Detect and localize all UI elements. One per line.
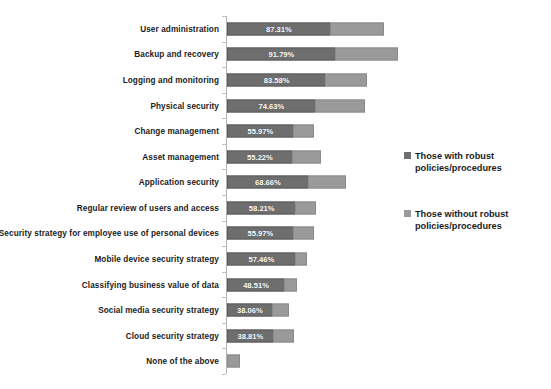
bar-segment-with-robust[interactable]: 48.51% <box>227 278 284 291</box>
bar-segment-with-robust[interactable]: 58.21% <box>227 201 295 214</box>
bar-row: None of the above10.71% <box>226 348 401 374</box>
bar-segment-without-robust[interactable]: 10.71% <box>284 278 297 291</box>
bar-segment-without-robust[interactable]: 17.86% <box>273 329 294 342</box>
bar-segment-with-robust[interactable]: 68.66% <box>227 176 308 189</box>
bar-segment-with-robust[interactable]: 87.31% <box>227 22 330 35</box>
bar-value-label: 38.81% <box>237 331 263 340</box>
bar-segment-with-robust[interactable]: 55.97% <box>227 125 293 138</box>
bar-segment-without-robust[interactable]: 17.86% <box>293 125 314 138</box>
bar-segment-without-robust[interactable]: 35.71% <box>325 73 367 86</box>
bar-row: Change management55.97%17.86% <box>226 118 401 144</box>
bar-row: Security strategy for employee use of pe… <box>226 221 401 247</box>
stacked-bar[interactable]: 10.71% <box>227 355 240 368</box>
bar-row: Asset management55.22%25.00% <box>226 144 401 170</box>
bar-segment-without-robust[interactable]: 46.43% <box>330 22 385 35</box>
stacked-bar[interactable]: 38.06%14.29% <box>227 304 289 317</box>
bar-segment-with-robust[interactable]: 74.63% <box>227 99 315 112</box>
stacked-bar[interactable]: 38.81%17.86% <box>227 329 294 342</box>
stacked-bar[interactable]: 55.97%17.86% <box>227 125 314 138</box>
bar-segment-with-robust[interactable]: 55.97% <box>227 227 293 240</box>
stacked-bar[interactable]: 58.21%17.86% <box>227 201 316 214</box>
bar-segment-without-robust[interactable]: 42.86% <box>315 99 365 112</box>
bar-value-label: 55.97% <box>248 127 274 136</box>
stacked-bar[interactable]: 91.79%53.57% <box>227 48 398 61</box>
bar-value-label: 48.51% <box>243 280 269 289</box>
stacked-bar[interactable]: 55.97%17.86% <box>227 227 314 240</box>
bar-segment-without-robust[interactable]: 25.00% <box>292 150 321 163</box>
legend-item-label: Those with robust policies/procedures <box>415 150 533 174</box>
bar-value-label: 91.79% <box>269 50 295 59</box>
bar-value-label: 74.63% <box>259 101 285 110</box>
category-label: Mobile device security strategy <box>94 254 219 263</box>
bar-row: Social media security strategy38.06%14.2… <box>226 297 401 323</box>
category-label: Change management <box>134 127 219 136</box>
bar-value-label: 38.06% <box>237 306 263 315</box>
legend-item-with: Those with robust policies/procedures <box>404 150 549 174</box>
bar-value-label: 83.58% <box>264 75 290 84</box>
category-label: None of the above <box>146 357 219 366</box>
category-label: Cloud security strategy <box>126 331 219 340</box>
bar-segment-without-robust[interactable]: 14.29% <box>272 304 289 317</box>
square-swatch-icon <box>404 152 411 159</box>
bar-segment-with-robust[interactable]: 83.58% <box>227 73 325 86</box>
bar-row: Classifying business value of data48.51%… <box>226 272 401 298</box>
bar-row: Application security68.66%32.14% <box>226 169 401 195</box>
square-swatch-icon <box>404 210 411 217</box>
bar-segment-with-robust[interactable]: 55.22% <box>227 150 292 163</box>
category-label: Backup and recovery <box>134 50 219 59</box>
bar-row: Regular review of users and access58.21%… <box>226 195 401 221</box>
stacked-bar-chart: User administration87.31%46.43%Backup an… <box>0 0 551 389</box>
bar-segment-without-robust[interactable]: 53.57% <box>335 48 398 61</box>
stacked-bar[interactable]: 48.51%10.71% <box>227 278 297 291</box>
bar-value-label: 55.22% <box>247 152 273 161</box>
stacked-bar[interactable]: 83.58%35.71% <box>227 73 367 86</box>
stacked-bar[interactable]: 55.22%25.00% <box>227 150 321 163</box>
bar-segment-with-robust[interactable]: 91.79% <box>227 48 335 61</box>
stacked-bar[interactable]: 57.46%10.71% <box>227 252 307 265</box>
bar-segment-with-robust[interactable]: 38.06% <box>227 304 272 317</box>
category-label: User administration <box>140 24 219 33</box>
stacked-bar[interactable]: 68.66%32.14% <box>227 176 346 189</box>
bar-row: Logging and monitoring83.58%35.71% <box>226 67 401 93</box>
category-label: Classifying business value of data <box>82 280 219 289</box>
bar-segment-without-robust[interactable]: 10.71% <box>295 252 308 265</box>
legend-item-without: Those without robust policies/procedures <box>404 208 549 232</box>
bar-segment-with-robust[interactable]: 38.81% <box>227 329 273 342</box>
plot-area: User administration87.31%46.43%Backup an… <box>226 16 401 374</box>
category-label: Physical security <box>150 101 219 110</box>
category-label: Logging and monitoring <box>123 75 219 84</box>
bar-value-label: 68.66% <box>255 178 281 187</box>
bar-value-label: 57.46% <box>248 254 274 263</box>
stacked-bar[interactable]: 74.63%42.86% <box>227 99 365 112</box>
category-label: Regular review of users and access <box>77 203 219 212</box>
category-label: Application security <box>139 178 219 187</box>
bar-segment-without-robust[interactable]: 17.86% <box>293 227 314 240</box>
bar-row: Cloud security strategy38.81%17.86% <box>226 323 401 349</box>
bar-row: Physical security74.63%42.86% <box>226 93 401 119</box>
bar-segment-with-robust[interactable]: 57.46% <box>227 252 295 265</box>
bar-segment-without-robust[interactable]: 32.14% <box>308 176 346 189</box>
category-label: Social media security strategy <box>98 306 219 315</box>
axis-tick <box>222 374 226 375</box>
bar-value-label: 55.97% <box>248 229 274 238</box>
category-label: Security strategy for employee use of pe… <box>0 229 219 238</box>
chart-legend: Those with robust policies/procedures Th… <box>404 150 549 266</box>
bar-value-label: 58.21% <box>249 203 275 212</box>
bar-segment-without-robust[interactable]: 17.86% <box>295 201 316 214</box>
stacked-bar[interactable]: 87.31%46.43% <box>227 22 384 35</box>
bar-row: Mobile device security strategy57.46%10.… <box>226 246 401 272</box>
bar-row: Backup and recovery91.79%53.57% <box>226 42 401 68</box>
bar-value-label: 87.31% <box>266 24 292 33</box>
bar-row: User administration87.31%46.43% <box>226 16 401 42</box>
category-label: Asset management <box>142 152 219 161</box>
bar-segment-without-robust[interactable]: 10.71% <box>227 355 240 368</box>
legend-item-label: Those without robust policies/procedures <box>415 208 533 232</box>
